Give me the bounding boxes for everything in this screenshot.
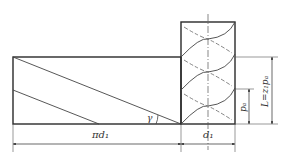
worm-cylinder: [181, 22, 235, 124]
lead-angle-label: γ: [147, 113, 153, 123]
lead-label: L=z₁pₐ: [260, 76, 270, 108]
diameter-label: d₁: [203, 129, 213, 140]
lead-angle-arc: [156, 115, 158, 124]
worm-lead-diagram: γ πd₁ d₁ pₐ L=z₁pₐ: [0, 0, 287, 160]
helix-line-2: [13, 90, 99, 124]
helix-line-1: [13, 57, 181, 124]
circumference-label: πd₁: [91, 129, 109, 140]
axial-pitch-label: pₐ: [238, 103, 248, 112]
